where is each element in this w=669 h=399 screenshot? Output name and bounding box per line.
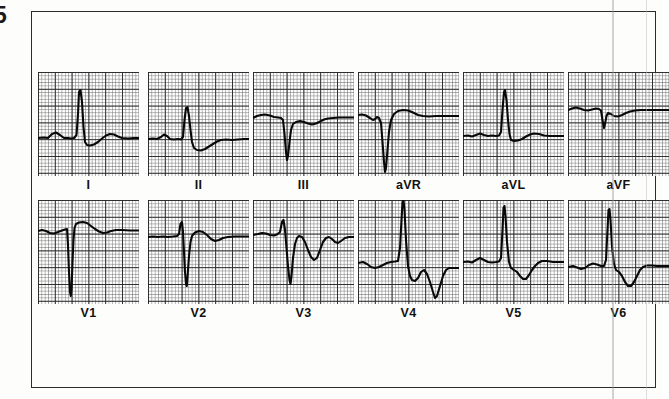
ecg-trace-path bbox=[463, 206, 564, 279]
lead-trace-panel bbox=[463, 200, 564, 304]
lead-trace-panel bbox=[148, 72, 249, 176]
figure-number-fragment: 5 bbox=[0, 4, 6, 27]
lead-panel-III[interactable]: III bbox=[253, 72, 354, 176]
lead-trace-panel bbox=[463, 72, 564, 176]
ecg-waveform bbox=[568, 72, 669, 176]
lead-panel-aVR[interactable]: aVR bbox=[358, 72, 459, 176]
ecg-waveform bbox=[253, 72, 354, 176]
precordial-lead-row: V1 V2 V3 bbox=[38, 200, 658, 322]
lead-label: V2 bbox=[148, 306, 249, 320]
ecg-lead-grid: I II III bbox=[38, 72, 658, 334]
lead-label: aVL bbox=[463, 178, 564, 192]
ecg-trace-path bbox=[253, 115, 354, 161]
ecg-waveform bbox=[38, 72, 139, 176]
ecg-trace-path bbox=[38, 222, 139, 296]
lead-trace-panel bbox=[568, 72, 669, 176]
lead-panel-I[interactable]: I bbox=[38, 72, 139, 176]
lead-trace-panel bbox=[358, 72, 459, 176]
lead-label: V1 bbox=[38, 306, 139, 320]
limb-lead-row: I II III bbox=[38, 72, 658, 194]
ecg-trace-path bbox=[358, 110, 459, 172]
ecg-trace-path bbox=[148, 222, 249, 286]
lead-label: aVF bbox=[568, 178, 669, 192]
lead-panel-V4[interactable]: V4 bbox=[358, 200, 459, 304]
lead-trace-panel bbox=[253, 200, 354, 304]
ecg-waveform bbox=[463, 72, 564, 176]
lead-trace-panel bbox=[38, 72, 139, 176]
ecg-trace-path bbox=[463, 90, 564, 141]
ecg-trace-path bbox=[358, 200, 459, 298]
lead-panel-II[interactable]: II bbox=[148, 72, 249, 176]
lead-trace-panel bbox=[38, 200, 139, 304]
lead-trace-panel bbox=[358, 200, 459, 304]
lead-panel-V5[interactable]: V5 bbox=[463, 200, 564, 304]
ecg-waveform bbox=[463, 200, 564, 304]
lead-label: I bbox=[38, 178, 139, 192]
lead-trace-panel bbox=[148, 200, 249, 304]
lead-panel-V6[interactable]: V6 bbox=[568, 200, 669, 304]
ecg-waveform bbox=[358, 72, 459, 176]
lead-label: V5 bbox=[463, 306, 564, 320]
ecg-trace-path bbox=[148, 107, 249, 151]
lead-panel-aVL[interactable]: aVL bbox=[463, 72, 564, 176]
lead-label: II bbox=[148, 178, 249, 192]
ecg-waveform bbox=[358, 200, 459, 304]
lead-panel-V1[interactable]: V1 bbox=[38, 200, 139, 304]
ecg-trace-path bbox=[253, 220, 354, 284]
lead-trace-panel bbox=[253, 72, 354, 176]
lead-label: aVR bbox=[358, 178, 459, 192]
lead-panel-aVF[interactable]: aVF bbox=[568, 72, 669, 176]
lead-trace-panel bbox=[568, 200, 669, 304]
ecg-waveform bbox=[148, 72, 249, 176]
ecg-trace-path bbox=[568, 209, 669, 286]
ecg-trace-path bbox=[38, 90, 139, 146]
lead-label: V6 bbox=[568, 306, 669, 320]
ecg-waveform bbox=[568, 200, 669, 304]
lead-panel-V3[interactable]: V3 bbox=[253, 200, 354, 304]
ecg-waveform bbox=[253, 200, 354, 304]
lead-panel-V2[interactable]: V2 bbox=[148, 200, 249, 304]
ecg-waveform bbox=[38, 200, 139, 304]
ecg-trace-path bbox=[568, 108, 669, 129]
ecg-waveform bbox=[148, 200, 249, 304]
lead-label: V3 bbox=[253, 306, 354, 320]
lead-label: III bbox=[253, 178, 354, 192]
lead-label: V4 bbox=[358, 306, 459, 320]
